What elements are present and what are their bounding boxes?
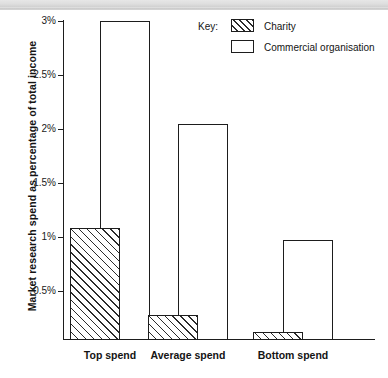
- y-tick-2: [58, 129, 63, 130]
- bar-chart-plot-area: Market research spend as percentage of t…: [0, 0, 388, 378]
- legend-label-commercial: Commercial organisation: [264, 42, 375, 53]
- hatched-swatch-icon: [231, 19, 254, 32]
- bar-commercial-average-spend: [178, 124, 228, 340]
- y-tick-label-3: 3%: [42, 16, 56, 26]
- y-tick-1-5: [58, 183, 63, 184]
- y-tick-label-1: 1%: [42, 232, 56, 242]
- legend-label-charity: Charity: [264, 21, 296, 32]
- legend-row-commercial: Commercial organisation: [198, 39, 384, 60]
- y-tick-label-2: 2%: [42, 124, 56, 134]
- y-tick-2-5: [58, 75, 63, 76]
- chart-page: Market research spend as percentage of t…: [0, 0, 388, 378]
- y-tick-1: [58, 237, 63, 238]
- legend-row-charity: Key: Charity: [198, 18, 384, 39]
- legend-key-label: Key:: [198, 21, 218, 32]
- bar-commercial-bottom-spend: [283, 240, 333, 340]
- y-tick-3: [58, 21, 63, 22]
- bar-charity-bottom-spend: [253, 332, 303, 340]
- white-swatch-icon: [231, 40, 254, 53]
- x-tick-label-average-spend: Average spend: [136, 349, 240, 361]
- x-tick-label-bottom-spend: Bottom spend: [241, 349, 345, 361]
- bar-charity-top-spend: [70, 228, 120, 340]
- y-tick-label-1-5: 1.5%: [33, 178, 56, 188]
- y-axis-line: [63, 20, 64, 340]
- chart-legend: Key: Charity Commercial organisation: [198, 18, 384, 60]
- bar-charity-average-spend: [148, 315, 198, 340]
- y-tick-label-2-5: 2.5%: [33, 70, 56, 80]
- y-tick-0-5: [58, 291, 63, 292]
- y-tick-label-0-5: 0.5%: [33, 286, 56, 296]
